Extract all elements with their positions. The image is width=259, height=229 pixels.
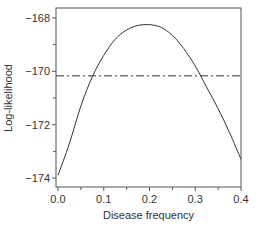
data-series bbox=[58, 25, 241, 176]
x-tick-label: 0.4 bbox=[233, 193, 248, 205]
log-likelihood-chart: 0.00.10.20.30.4 −168−170−172−174 Disease… bbox=[0, 0, 259, 229]
x-axis: 0.00.10.20.30.4 bbox=[50, 187, 248, 205]
x-tick-label: 0.2 bbox=[142, 193, 157, 205]
x-axis-label: Disease frequency bbox=[103, 209, 195, 221]
x-tick-label: 0.0 bbox=[50, 193, 65, 205]
y-tick-label: −168 bbox=[25, 12, 50, 24]
y-axis: −168−170−172−174 bbox=[25, 12, 56, 184]
y-tick-label: −170 bbox=[25, 65, 50, 77]
x-tick-label: 0.3 bbox=[188, 193, 203, 205]
x-tick-label: 0.1 bbox=[96, 193, 111, 205]
y-tick-label: −174 bbox=[25, 172, 50, 184]
log-likelihood-curve bbox=[58, 25, 241, 176]
y-axis-label: Log-likelihood bbox=[2, 64, 14, 132]
y-tick-label: −172 bbox=[25, 119, 50, 131]
